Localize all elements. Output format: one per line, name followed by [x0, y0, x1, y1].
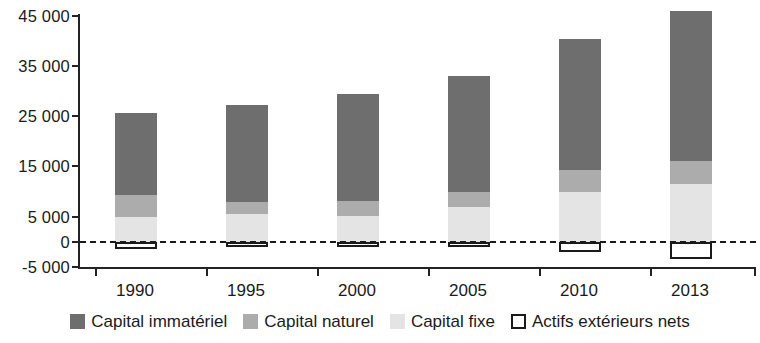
bar-group-2013[interactable] — [670, 0, 712, 280]
y-axis-label-0: 0 — [0, 234, 70, 251]
bar-segment-capital-immat-riel — [448, 76, 490, 192]
y-axis-label-minus5000: -5 000 — [0, 259, 70, 276]
bar-segment-capital-immat-riel — [115, 113, 157, 195]
bar-segment-capital-naturel — [559, 170, 601, 192]
y-axis-label-15000: 15 000 — [0, 158, 70, 175]
bar-group-2005[interactable] — [448, 0, 490, 280]
y-axis-label-text: 0 — [4, 234, 70, 251]
y-axis-label-text: 35 000 — [4, 58, 70, 75]
bar-segment-capital-immat-riel — [670, 11, 712, 160]
y-axis-tick — [72, 241, 80, 243]
y-axis-tick — [72, 65, 80, 67]
legend-label: Capital naturel — [264, 313, 374, 330]
bar-segment-capital-fixe — [226, 214, 268, 242]
legend-label: Capital immatériel — [91, 313, 227, 330]
zero-reference-line — [80, 241, 756, 243]
bar-segment-capital-immat-riel — [559, 39, 601, 170]
bar-segment-capital-fixe — [670, 184, 712, 242]
y-axis-label-5000: 5 000 — [0, 209, 70, 226]
x-axis-label-2000: 2000 — [317, 282, 397, 299]
x-axis-tick — [754, 269, 756, 276]
y-axis-label-25000: 25 000 — [0, 108, 70, 125]
x-axis-label-1995: 1995 — [206, 282, 286, 299]
y-axis-tick — [72, 216, 80, 218]
bar-segment-capital-immat-riel — [226, 105, 268, 202]
bar-group-1990[interactable] — [115, 0, 157, 280]
x-axis-line — [78, 267, 756, 269]
y-axis-label-text: 45 000 — [4, 8, 70, 25]
y-axis-label-35000: 35 000 — [0, 58, 70, 75]
x-axis-label-1990: 1990 — [95, 282, 175, 299]
bar-segment-capital-fixe — [115, 217, 157, 242]
bar-segment-capital-fixe — [448, 207, 490, 242]
y-axis-label-text: 15 000 — [4, 158, 70, 175]
legend-label: Capital fixe — [411, 313, 495, 330]
x-axis-label-2005: 2005 — [428, 282, 508, 299]
y-axis-tick — [72, 165, 80, 167]
x-axis-tick — [539, 269, 541, 276]
bar-group-1995[interactable] — [226, 0, 268, 280]
x-axis-tick — [428, 269, 430, 276]
y-axis-label-text: 5 000 — [4, 209, 70, 226]
bar-segment-capital-fixe — [337, 216, 379, 242]
x-axis-tick — [95, 269, 97, 276]
bar-segment-capital-naturel — [670, 161, 712, 184]
y-axis-tick — [72, 15, 80, 17]
stacked-bar-chart: 45 000 35 000 25 000 15 000 5 000 0 -5 0… — [0, 0, 760, 343]
medium-gray-swatch-icon — [243, 314, 258, 329]
bar-group-2000[interactable] — [337, 0, 379, 280]
legend-item-actifs-exterieurs-nets[interactable]: Actifs extérieurs nets — [511, 313, 690, 330]
bar-group-2010[interactable] — [559, 0, 601, 280]
dark-gray-swatch-icon — [70, 314, 85, 329]
y-axis-label-text: 25 000 — [4, 108, 70, 125]
x-axis-tick — [317, 269, 319, 276]
legend-item-capital-immateriel[interactable]: Capital immatériel — [70, 313, 227, 330]
x-axis-tick — [206, 269, 208, 276]
y-axis-label-45000: 45 000 — [0, 8, 70, 25]
bar-segment-capital-naturel — [226, 202, 268, 214]
chart-legend: Capital immatériel Capital naturel Capit… — [0, 313, 760, 330]
y-axis-label-text: -5 000 — [4, 259, 70, 276]
bar-segment-capital-immat-riel — [337, 94, 379, 201]
bar-segment-actifs-exterieurs-nets — [670, 242, 712, 259]
x-axis-label-2010: 2010 — [539, 282, 619, 299]
bar-segment-capital-fixe — [559, 192, 601, 242]
outlined-white-swatch-icon — [511, 314, 526, 329]
legend-label: Actifs extérieurs nets — [532, 313, 690, 330]
bar-segment-actifs-exterieurs-nets — [559, 242, 601, 252]
x-axis-label-2013: 2013 — [650, 282, 730, 299]
x-axis-tick — [650, 269, 652, 276]
legend-item-capital-fixe[interactable]: Capital fixe — [390, 313, 495, 330]
legend-item-capital-naturel[interactable]: Capital naturel — [243, 313, 374, 330]
light-gray-swatch-icon — [390, 314, 405, 329]
bar-segment-capital-naturel — [448, 192, 490, 207]
y-axis-tick — [72, 115, 80, 117]
bar-segment-capital-naturel — [115, 195, 157, 217]
bar-segment-capital-naturel — [337, 201, 379, 216]
y-axis-line — [78, 14, 80, 269]
